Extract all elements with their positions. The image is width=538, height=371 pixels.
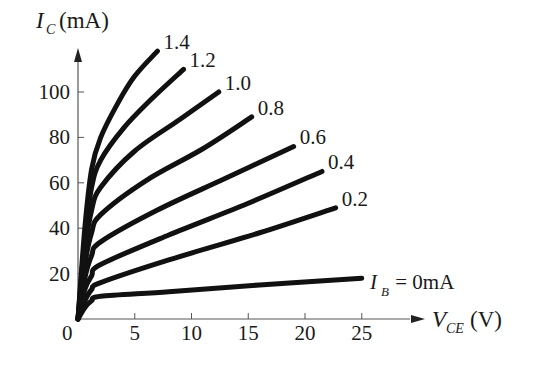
curve-label: 0.2: [342, 187, 368, 211]
y-tick-label: 40: [49, 216, 70, 240]
y-tick-label: 100: [39, 80, 71, 104]
curve-label: 0.4: [328, 150, 355, 174]
curve-labels: 1.41.21.00.80.60.40.2: [163, 30, 367, 211]
y-axis-title-unit: (mA): [59, 8, 109, 33]
x-tick-label: 25: [351, 321, 372, 345]
ib-label-main: I: [369, 270, 378, 294]
curve-label: 0.6: [300, 125, 326, 149]
x-tick-label: 5: [130, 321, 141, 345]
y-axis-arrow-icon: [74, 48, 82, 62]
x-ticks: 510152025: [130, 313, 373, 345]
x-tick-label: 15: [238, 321, 259, 345]
y-ticks: 20406080100: [39, 80, 85, 286]
ib-label-rest: = 0mA: [390, 270, 455, 294]
y-axis-title-main: I: [35, 8, 45, 33]
curve-ib-0.2: [78, 208, 336, 319]
ib-label-sub: B: [381, 284, 389, 299]
curve-label: 0.8: [258, 96, 284, 120]
y-tick-label: 80: [49, 125, 70, 149]
curve-label: 1.4: [163, 30, 190, 54]
chart-figure: 510152025 20406080100 1.41.21.00.80.60.4…: [0, 0, 538, 371]
y-tick-label: 20: [49, 262, 70, 286]
curve-ib-0: [78, 278, 362, 319]
x-axis-title-unit: (V): [470, 307, 502, 332]
chart-svg: 510152025 20406080100 1.41.21.00.80.60.4…: [0, 0, 538, 371]
origin-label: 0: [62, 321, 73, 345]
curve-label: 1.0: [225, 71, 251, 95]
curve-label: 1.2: [190, 48, 216, 72]
y-axis-title-sub: C: [46, 22, 56, 37]
x-tick-label: 10: [181, 321, 202, 345]
x-axis-arrow-icon: [411, 315, 425, 323]
curves: [78, 51, 362, 319]
x-axis-title-sub: CE: [446, 321, 464, 336]
x-tick-label: 20: [295, 321, 316, 345]
y-tick-label: 60: [49, 171, 70, 195]
